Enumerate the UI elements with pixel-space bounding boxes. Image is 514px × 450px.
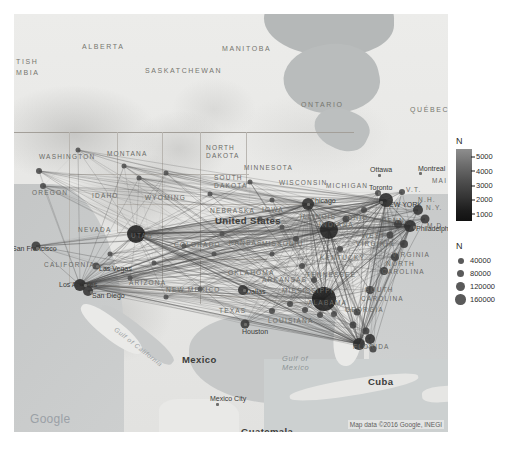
- network-node[interactable]: [337, 246, 343, 252]
- network-node[interactable]: [287, 301, 293, 307]
- network-node[interactable]: [350, 322, 357, 329]
- city-dot: [84, 284, 87, 287]
- city-label: Ottawa: [370, 166, 392, 173]
- city-label: San Diego: [92, 292, 125, 299]
- city-dot: [96, 265, 99, 268]
- state-label: MICHIGAN: [326, 182, 368, 189]
- state-label: WYOMING: [145, 194, 186, 201]
- city-label: Chicago: [310, 197, 336, 204]
- color-legend-tick-mark: [471, 171, 475, 172]
- city-dot: [413, 226, 416, 229]
- network-node[interactable]: [269, 308, 275, 314]
- network-node[interactable]: [400, 240, 408, 248]
- size-legend-dot-cell: [456, 294, 470, 305]
- province-label: MBIA: [16, 69, 40, 76]
- state-label: IOWA: [262, 206, 284, 213]
- city-label: NEW YORK: [384, 201, 422, 208]
- network-node[interactable]: [220, 232, 225, 237]
- network-node[interactable]: [76, 148, 81, 153]
- network-node[interactable]: [248, 180, 253, 185]
- state-label: SOUTH: [365, 286, 394, 293]
- city-label: Montreal: [418, 165, 445, 172]
- google-logo[interactable]: Google: [30, 412, 71, 426]
- state-label: V.T.: [406, 186, 421, 193]
- color-legend-tick-mark: [471, 185, 475, 186]
- network-node[interactable]: [299, 263, 305, 269]
- state-label: ALABAMA: [308, 299, 347, 306]
- state-label: NEW MEXICO: [166, 286, 221, 293]
- size-legend-rows: 4000080000120000160000: [456, 254, 514, 306]
- color-legend-tick: 4000: [476, 166, 493, 175]
- state-label: IDAHO: [92, 192, 119, 199]
- state-label: WISCONSIN: [279, 179, 327, 186]
- network-node[interactable]: [212, 252, 217, 257]
- province-label: ALBERTA: [82, 43, 124, 50]
- network-node[interactable]: [108, 252, 113, 257]
- province-label: ONTARIO: [301, 101, 344, 108]
- country-label: Cuba: [368, 376, 393, 387]
- state-label: MAI: [432, 177, 447, 184]
- google-logo-text: Google: [30, 412, 71, 426]
- size-legend-title: N: [456, 241, 514, 251]
- city-label: Toronto: [369, 184, 392, 191]
- size-legend: N 4000080000120000160000: [456, 241, 514, 306]
- network-node[interactable]: [36, 168, 42, 174]
- network-node[interactable]: [331, 311, 337, 317]
- city-dot: [378, 192, 381, 195]
- province-label: SASKATCHEWAN: [145, 67, 222, 74]
- network-node[interactable]: [164, 171, 169, 176]
- legend-panel: N 50004000300020001000 N 400008000012000…: [456, 136, 514, 306]
- network-node[interactable]: [399, 189, 405, 195]
- size-legend-label: 120000: [470, 282, 495, 291]
- network-node[interactable]: [363, 328, 370, 335]
- network-node[interactable]: [270, 198, 275, 203]
- state-label: NEBRASKA: [210, 207, 255, 214]
- color-legend-tick: 2000: [476, 195, 493, 204]
- state-label: KENTUCKY: [320, 254, 365, 261]
- network-node[interactable]: [152, 261, 157, 266]
- country-label: Mexico: [182, 354, 217, 365]
- state-label: DAKOTA: [214, 182, 247, 189]
- province-label: TISH: [16, 58, 38, 65]
- state-label: ILLINOIS: [300, 213, 336, 220]
- state-label: TEXAS: [219, 307, 246, 314]
- size-legend-dot-cell: [456, 282, 470, 291]
- city-label: Las Vegas: [99, 265, 132, 272]
- state-label: N.Y.: [426, 204, 443, 211]
- map-attribution: Map data ©2016 Google, INEGI: [348, 420, 444, 429]
- state-label: WEST: [362, 232, 386, 239]
- city-dot: [244, 323, 247, 326]
- city-label: Mexico City: [210, 395, 246, 402]
- network-node[interactable]: [208, 192, 213, 197]
- city-dot: [243, 289, 246, 292]
- network-node[interactable]: [361, 207, 367, 213]
- size-legend-dot: [455, 294, 466, 305]
- city-label: Dallas: [246, 288, 265, 295]
- size-legend-row: 40000: [456, 254, 514, 267]
- state-label: OKLAHOMA: [228, 269, 274, 276]
- state-label: SOUTH: [214, 174, 243, 181]
- country-label: United States: [215, 215, 281, 226]
- network-node[interactable]: [122, 164, 127, 169]
- network-node[interactable]: [137, 176, 142, 181]
- state-label: PENN.: [382, 217, 408, 224]
- size-legend-dot: [456, 282, 465, 291]
- state-label: VIRGINIA: [356, 240, 394, 247]
- state-label: KANSAS: [229, 239, 263, 246]
- state-label: NORTH: [386, 260, 415, 267]
- network-node[interactable]: [317, 312, 323, 318]
- city-dot: [380, 201, 383, 204]
- color-legend-tick-mark: [471, 156, 475, 157]
- network-node[interactable]: [387, 232, 394, 239]
- state-label: MISSISSIPPI: [282, 287, 334, 294]
- state-label: INDIANA: [319, 221, 354, 228]
- state-label: CAROLINA: [361, 295, 404, 302]
- color-legend: N 50004000300020001000: [456, 136, 514, 221]
- network-node[interactable]: [164, 295, 169, 300]
- network-node[interactable]: [270, 252, 275, 257]
- map-canvas[interactable]: TISHMBIAALBERTASASKATCHEWANMANITOBAONTAR…: [14, 14, 448, 432]
- state-label: MONTANA: [107, 150, 147, 157]
- state-label: MINNESOTA: [244, 164, 293, 171]
- color-legend-title: N: [456, 136, 514, 146]
- network-node[interactable]: [302, 307, 308, 313]
